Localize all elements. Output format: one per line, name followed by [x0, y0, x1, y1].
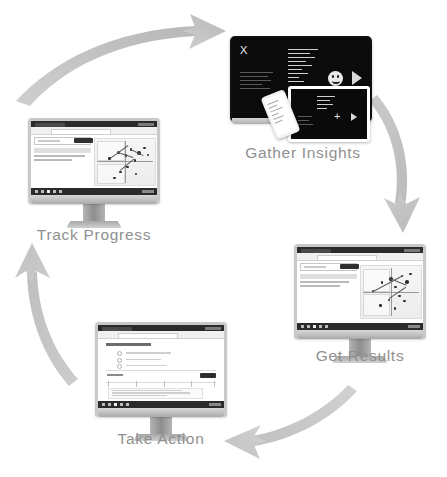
screen-bar-line [288, 81, 304, 82]
browser-addressbar[interactable] [31, 127, 157, 135]
chart-point [394, 286, 396, 288]
browser-content [31, 135, 157, 188]
screen-text-line [240, 80, 271, 81]
monitor-bezel [28, 118, 160, 204]
plus-icon[interactable]: + [334, 111, 340, 122]
chart-point [398, 295, 400, 297]
chart-point [405, 280, 408, 283]
tablet-text-line [298, 120, 309, 121]
browser-tab[interactable] [102, 327, 132, 331]
browser-tab[interactable] [301, 249, 331, 253]
monitor-chin [98, 408, 224, 417]
browser-tab[interactable] [35, 123, 65, 127]
chart-axis-horizontal [97, 161, 153, 162]
scale-tick [191, 381, 192, 387]
monitor-chin [297, 330, 423, 339]
browser-statusbar [31, 188, 157, 195]
address-input[interactable] [317, 255, 377, 261]
arrow-track-to-gather [16, 14, 226, 106]
form-textblock-line [112, 395, 167, 396]
form-radio[interactable] [117, 358, 122, 363]
tablet-bar-line [317, 100, 330, 101]
stage-take-action[interactable] [95, 322, 227, 441]
window-controls[interactable] [138, 123, 154, 126]
address-input[interactable] [118, 333, 178, 339]
window-controls[interactable] [404, 249, 420, 252]
screen-text-line [240, 76, 268, 77]
browser-content [98, 339, 224, 401]
monitor-chin [31, 195, 157, 204]
statusbar-tray [142, 190, 154, 193]
result-row-highlighted[interactable] [300, 274, 358, 279]
screen-bar-line [288, 61, 306, 62]
screen-text-line [240, 72, 273, 73]
screen-bar-line [288, 65, 312, 66]
scale-tick [214, 381, 215, 387]
chart-point [126, 166, 128, 168]
form-option-label [126, 352, 171, 353]
form-field-label [107, 374, 123, 376]
filter-pill[interactable] [340, 264, 359, 269]
monitor-stand-neck [83, 204, 105, 221]
statusbar-tray [209, 403, 221, 406]
form-radio[interactable] [117, 364, 122, 369]
submit-button[interactable] [200, 373, 216, 378]
chart-point [409, 273, 411, 275]
chart-point [135, 173, 137, 175]
stage-get-results[interactable] [294, 244, 426, 363]
result-row[interactable] [300, 285, 341, 287]
monitor-bezel [95, 322, 227, 417]
chart-point [113, 177, 115, 179]
chart-point [143, 147, 145, 149]
monitor-screen [31, 121, 157, 195]
monitor-screen [297, 247, 423, 330]
phone-text-line [272, 113, 279, 117]
screen-text-line [240, 88, 270, 89]
form-heading [106, 343, 151, 345]
stage-label-track-progress: Track Progress [28, 226, 160, 244]
browser-content [297, 261, 423, 323]
gather-insights-tablet[interactable]: + [288, 86, 370, 142]
chart-point [379, 304, 381, 306]
chart-point [403, 300, 405, 302]
browser-addressbar[interactable] [297, 253, 423, 261]
arrow-action-to-track [15, 243, 78, 386]
stage-track-progress[interactable] [28, 118, 160, 228]
browser-statusbar [297, 323, 423, 330]
form-radio[interactable] [117, 351, 122, 356]
arrow-gather-to-results [369, 95, 420, 233]
phone-text-line [275, 120, 283, 124]
browser-addressbar[interactable] [98, 331, 224, 339]
scale-tick [108, 381, 109, 387]
stage-label-gather-insights: Gather Insights [230, 144, 376, 162]
stage-label-get-results: Get Results [294, 347, 426, 365]
browser-statusbar [98, 401, 224, 408]
form-textblock-line [112, 390, 183, 391]
tablet-text-line [298, 124, 313, 125]
tablet-bar-line [317, 96, 335, 97]
tablet-bar-line [317, 104, 333, 105]
window-controls[interactable] [205, 327, 221, 330]
stage-gather-insights[interactable]: X [230, 36, 376, 142]
chart-quadrant-box [97, 164, 124, 184]
play-icon-small[interactable] [351, 113, 357, 121]
form-textblock-line [112, 392, 190, 393]
play-icon[interactable] [352, 71, 362, 85]
stage-label-take-action: Take Action [95, 430, 227, 448]
chart-quadrant-box [363, 294, 389, 316]
result-row-highlighted[interactable] [34, 148, 92, 153]
address-input[interactable] [51, 129, 111, 135]
screen-bar-line [288, 53, 310, 54]
scatter-chart [360, 265, 422, 319]
screen-bar-line [288, 49, 318, 50]
result-row[interactable] [300, 281, 350, 283]
cycle-diagram-canvas: X [0, 0, 447, 477]
screen-text-line [240, 84, 262, 85]
tablet-screen: + [291, 89, 367, 139]
filter-pill[interactable] [74, 138, 93, 143]
result-row[interactable] [34, 155, 85, 157]
result-row[interactable] [34, 159, 72, 161]
arrow-results-to-action [224, 385, 357, 459]
x-logo-icon: X [240, 45, 247, 56]
monitor-bezel [294, 244, 426, 339]
